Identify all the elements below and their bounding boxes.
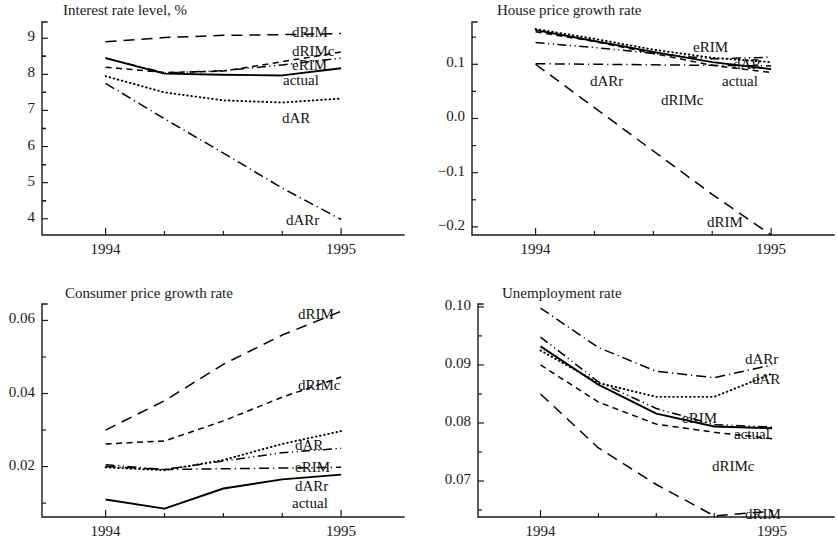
multi-panel-line-chart-figure: Interest rate level, %45678919941995dRIM… — [0, 0, 837, 558]
series-line-darr — [541, 308, 773, 378]
series-line-drim — [541, 394, 773, 516]
series-label-dar: dAR — [752, 371, 780, 388]
series-label-erim: eRIM — [682, 410, 717, 427]
series-line-dar — [541, 350, 773, 396]
series-label-darr: dARr — [745, 351, 778, 368]
series-line-actual — [541, 346, 773, 428]
series-label-drim: dRIM — [745, 506, 781, 523]
series-label-drimc: dRIMc — [712, 458, 755, 475]
series-label-actual: actual — [734, 426, 770, 443]
